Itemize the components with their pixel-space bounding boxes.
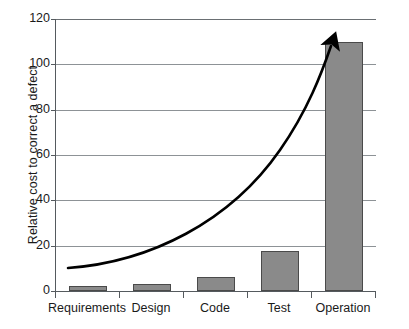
x-axis-category-label: Requirements: [48, 299, 126, 317]
y-axis-tick-mark: [51, 200, 56, 201]
plot-area: [55, 19, 375, 291]
bar: [325, 42, 363, 291]
y-axis-tick-label: 80: [26, 102, 50, 118]
y-axis-tick-label-text: 20: [26, 238, 50, 252]
x-axis-tick-mark: [55, 291, 56, 298]
y-axis-tick-label-text: 80: [26, 102, 50, 116]
bar: [197, 277, 235, 291]
x-axis-tick-labels: RequirementsDesignCodeTestOperation: [55, 291, 375, 329]
y-axis-tick-label: 40: [26, 192, 50, 208]
x-axis-category-label: Test: [268, 299, 291, 317]
bar: [133, 284, 171, 291]
x-axis-tick-mark: [311, 291, 312, 298]
x-axis-tick-mark: [119, 291, 120, 298]
y-axis-tick-label-text: 60: [26, 147, 50, 161]
y-axis-tick-label: 100: [26, 56, 50, 72]
y-axis-tick-label: 60: [26, 147, 50, 163]
x-axis-category-label: Design: [132, 299, 171, 317]
x-axis-tick-mark: [183, 291, 184, 298]
y-axis-tick-label-text: 100: [26, 56, 50, 70]
y-axis-tick-label-text: 0: [26, 283, 50, 297]
x-axis-category-label: Code: [200, 299, 230, 317]
gridline: [56, 19, 376, 20]
y-axis-tick-mark: [51, 19, 56, 20]
y-axis-tick-label: 0: [26, 283, 50, 299]
x-axis-tick-mark: [247, 291, 248, 298]
y-axis-tick-mark: [51, 110, 56, 111]
y-axis-tick-mark: [51, 246, 56, 247]
x-axis-category-label: Operation: [316, 299, 371, 317]
y-axis-tick-label: 120: [26, 11, 50, 27]
bar: [261, 251, 299, 291]
y-axis-tick-label-text: 120: [26, 11, 50, 25]
y-axis-tick-mark: [51, 64, 56, 65]
y-axis-tick-label-text: 40: [26, 192, 50, 206]
x-axis-tick-mark: [375, 291, 376, 298]
y-axis-tick-labels: 020406080100120: [26, 0, 50, 329]
y-axis-tick-mark: [51, 155, 56, 156]
bar-chart: Relative cost to correct a defect 020406…: [0, 0, 409, 329]
y-axis-tick-label: 20: [26, 238, 50, 254]
